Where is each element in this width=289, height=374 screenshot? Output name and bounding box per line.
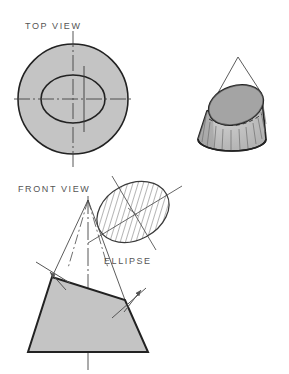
pictorial-cone-group: [198, 57, 269, 151]
ellipse-label: ELLIPSE: [104, 256, 152, 266]
front-view-apex-line-left: [52, 200, 88, 277]
front-view-cone-body: [28, 277, 148, 352]
engineering-drawing-canvas: TOP VIEW: [0, 0, 289, 374]
drawing-page: TOP VIEW: [0, 0, 289, 374]
cutting-plane-arrow-right: [124, 290, 141, 312]
top-view-label: TOP VIEW: [25, 21, 81, 31]
front-view-label: FRONT VIEW: [18, 184, 90, 194]
top-view-group: TOP VIEW: [14, 21, 133, 168]
front-view-apex-centerline-left: [68, 200, 88, 268]
true-shape-ellipse-group: ELLIPSE: [86, 169, 182, 266]
